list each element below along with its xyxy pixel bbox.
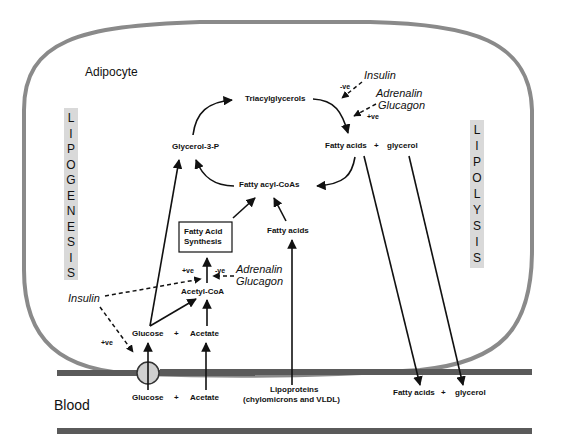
node-lipoproteins-line1: Lipoproteins xyxy=(270,385,319,394)
fatty-acid-synthesis-line1: Fatty Acid xyxy=(184,227,222,236)
sidebar-letter: L xyxy=(68,111,75,125)
regulator-effect: -ve xyxy=(340,83,350,90)
arrow-glycerol3p-to-tag xyxy=(193,100,232,135)
plus-sign: + xyxy=(374,141,379,150)
sidebar-letter: S xyxy=(473,251,481,265)
node-fatty-acids-lipolysis: Fatty acids xyxy=(325,141,367,150)
regulator-effect: +ve xyxy=(182,267,194,274)
node-glycerol-lipolysis: glycerol xyxy=(387,141,418,150)
sidebar-letter: E xyxy=(67,189,75,203)
arrow-acyl-coas-to-glycerol3p xyxy=(196,160,234,186)
sidebar-letter: N xyxy=(67,204,76,218)
plus-sign: + xyxy=(174,329,179,338)
adipocyte-metabolism-diagram: Adipocyte Blood LIPOGENESIS LIPOLYSIS Tr… xyxy=(0,0,563,438)
node-glycerol-blood: glycerol xyxy=(455,388,486,397)
node-fatty-acyl-coas: Fatty acyl-CoAs xyxy=(239,180,300,189)
regulator-glucagon-lipogenesis: Glucagon xyxy=(236,275,283,287)
node-glucose-cell: Glucose xyxy=(132,329,164,338)
regulator-glucagon-lipolysis: Glucagon xyxy=(378,99,425,111)
cell-label: Adipocyte xyxy=(85,65,138,79)
node-acetate-blood: Acetate xyxy=(190,393,219,402)
regulator-insulin-lipogenesis: Insulin xyxy=(68,292,100,304)
regulator-insulin-lipolysis: Insulin xyxy=(364,69,396,81)
arrow-fatty-acids-to-acyl-coas xyxy=(274,198,286,221)
regulator-adrenalin-lipolysis: Adrenalin xyxy=(375,87,422,99)
sidebar-letter: S xyxy=(67,235,75,249)
plus-sign: + xyxy=(441,388,446,397)
regulator-effect: +ve xyxy=(101,339,113,346)
sidebar-letter: Y xyxy=(473,203,481,217)
regulator-adrenalin-lipogenesis: Adrenalin xyxy=(235,263,282,275)
arrow-glucose-to-acetyl-coa xyxy=(150,299,196,326)
node-acetate-cell: Acetate xyxy=(190,329,219,338)
node-glycerol-3-p: Glycerol-3-P xyxy=(172,142,220,151)
sidebar-letter: L xyxy=(474,187,481,201)
node-glucose-blood: Glucose xyxy=(132,393,164,402)
sidebar-letter: S xyxy=(473,219,481,233)
sidebar-letter: G xyxy=(66,173,75,187)
arrow-fatty-acids-to-acyl-coas xyxy=(317,157,355,186)
sidebar-letter: P xyxy=(473,155,481,169)
vessel-wall-bottom xyxy=(57,428,532,434)
sidebar-letter: S xyxy=(67,266,75,280)
arrow-synthesis-to-acyl-coas xyxy=(233,198,255,218)
sidebar-letter: L xyxy=(474,123,481,137)
node-triacylglycerols: Triacylglycerols xyxy=(245,94,306,103)
node-fatty-acids-uptake: Fatty acids xyxy=(267,226,309,235)
node-acetyl-coa: Acetyl-CoA xyxy=(181,287,224,296)
arrow-glucose-to-glycerol3p xyxy=(150,160,179,326)
sidebar-letter: O xyxy=(66,158,75,172)
sidebar-letter: I xyxy=(475,235,478,249)
sidebar-letter: E xyxy=(67,220,75,234)
node-fatty-acids-blood: Fatty acids xyxy=(393,388,435,397)
sidebar-letter: P xyxy=(67,142,75,156)
fatty-acid-synthesis-line2: Synthesis xyxy=(184,237,222,246)
sidebar-letter: I xyxy=(69,127,72,141)
regulator-effect: +ve xyxy=(367,113,379,120)
vessel-wall-top-right xyxy=(160,369,532,375)
sidebar-letter: I xyxy=(475,139,478,153)
regulator-effect: -ve xyxy=(215,267,225,274)
arrow-fatty-acids-release xyxy=(364,156,420,385)
sidebar-letter: I xyxy=(69,251,72,265)
arrow-glycerol-release xyxy=(409,156,463,385)
node-lipoproteins-line2: (chylomicrons and VLDL) xyxy=(243,395,340,404)
arrow-tag-to-fatty-acids xyxy=(313,99,348,133)
plus-sign: + xyxy=(174,393,179,402)
sidebar-letter: O xyxy=(472,171,481,185)
blood-label: Blood xyxy=(54,397,90,413)
